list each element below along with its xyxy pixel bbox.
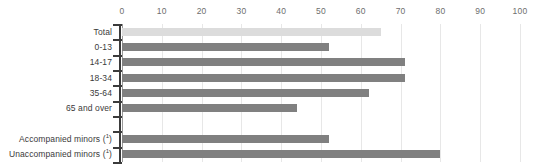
category-label-text: 14-17 bbox=[90, 57, 112, 67]
category-label-text: 18-34 bbox=[90, 73, 112, 83]
category-label-text: 65 and over bbox=[66, 103, 112, 113]
y-axis-tick-2 bbox=[113, 55, 122, 57]
footnote-marker: (1) bbox=[103, 134, 112, 144]
category-label-text: 0-13 bbox=[95, 42, 112, 52]
x-tick-label-20: 20 bbox=[197, 6, 207, 16]
axis-spine bbox=[119, 24, 121, 162]
x-axis: 0102030405060708090100 bbox=[0, 0, 538, 24]
category-label-7: Accompanied minors (1) bbox=[19, 134, 112, 144]
bar-3[interactable] bbox=[122, 74, 405, 82]
bar-7[interactable] bbox=[122, 135, 329, 143]
category-label-8: Unaccompanied minors (1) bbox=[9, 149, 112, 159]
bar-5[interactable] bbox=[122, 104, 297, 112]
x-tick-label-100: 100 bbox=[513, 6, 528, 16]
x-tick-label-30: 30 bbox=[236, 6, 246, 16]
gridline-100 bbox=[520, 24, 521, 162]
x-tick-label-80: 80 bbox=[435, 6, 445, 16]
x-tick-label-10: 10 bbox=[157, 6, 167, 16]
plot-area bbox=[122, 24, 526, 162]
category-label-1: 0-13 bbox=[95, 42, 112, 52]
bar-4[interactable] bbox=[122, 89, 369, 97]
gridline-80 bbox=[440, 24, 441, 162]
x-tick-label-90: 90 bbox=[475, 6, 485, 16]
category-label-text: Accompanied minors bbox=[19, 134, 103, 144]
bar-0[interactable] bbox=[122, 28, 381, 36]
y-axis-tick-1 bbox=[113, 39, 122, 41]
y-axis-tick-7 bbox=[113, 131, 122, 133]
footnote-marker: (1) bbox=[103, 149, 112, 159]
gridline-90 bbox=[480, 24, 481, 162]
horizontal-bar-chart: 0102030405060708090100 Total0-1314-1718-… bbox=[0, 0, 538, 164]
y-axis: Total0-1314-1718-3435-6465 and overAccom… bbox=[0, 24, 122, 162]
y-axis-tick-3 bbox=[113, 70, 122, 72]
category-label-3: 18-34 bbox=[90, 73, 112, 83]
y-axis-tick-5 bbox=[113, 101, 122, 103]
category-label-text: 35-64 bbox=[90, 88, 112, 98]
bar-1[interactable] bbox=[122, 43, 329, 51]
category-label-2: 14-17 bbox=[90, 57, 112, 67]
y-axis-tick-0 bbox=[113, 24, 122, 26]
category-label-4: 35-64 bbox=[90, 88, 112, 98]
x-tick-label-70: 70 bbox=[396, 6, 406, 16]
y-axis-tick-end bbox=[113, 162, 122, 164]
y-axis-tick-6 bbox=[113, 116, 122, 118]
category-label-text: Unaccompanied minors bbox=[9, 149, 103, 159]
y-axis-tick-8 bbox=[113, 147, 122, 149]
x-tick-label-50: 50 bbox=[316, 6, 326, 16]
y-axis-tick-4 bbox=[113, 85, 122, 87]
bar-2[interactable] bbox=[122, 58, 405, 66]
x-tick-label-40: 40 bbox=[276, 6, 286, 16]
x-tick-label-0: 0 bbox=[120, 6, 125, 16]
x-tick-label-60: 60 bbox=[356, 6, 366, 16]
gridline-70 bbox=[401, 24, 402, 162]
category-label-0: Total bbox=[94, 27, 112, 37]
category-label-text: Total bbox=[94, 27, 112, 37]
category-label-5: 65 and over bbox=[66, 103, 112, 113]
bar-8[interactable] bbox=[122, 150, 440, 158]
